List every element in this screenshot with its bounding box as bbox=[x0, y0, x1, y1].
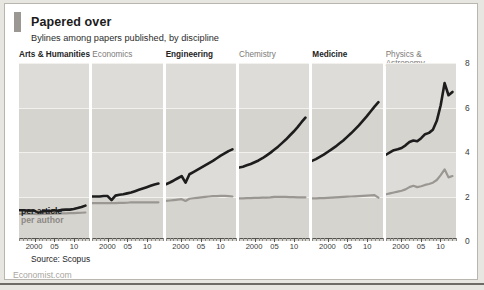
x-tick bbox=[425, 238, 426, 241]
y-tick-label: 0 bbox=[465, 236, 470, 246]
x-tick bbox=[27, 238, 28, 241]
x-tick bbox=[429, 238, 430, 241]
x-tick-labels: 20000510 bbox=[92, 242, 162, 254]
x-tick-labels: 20000510 bbox=[386, 242, 456, 254]
x-tick bbox=[19, 238, 20, 241]
x-tick bbox=[247, 238, 248, 241]
x-tick bbox=[386, 238, 387, 241]
x-tick bbox=[336, 238, 337, 241]
series-label-per-author: per author bbox=[21, 215, 64, 225]
y-tick-label: 8 bbox=[465, 58, 470, 68]
x-tick bbox=[351, 238, 352, 241]
chart-panel-arts-humanities: Arts & Humanitiesper articleper author20… bbox=[19, 50, 92, 246]
chart-plot-area: Arts & Humanitiesper articleper author20… bbox=[19, 50, 459, 246]
panel-body bbox=[386, 63, 456, 241]
x-tick bbox=[286, 238, 287, 241]
x-tick bbox=[278, 238, 279, 241]
panel-title: Arts & Humanities bbox=[19, 50, 90, 59]
x-tick-label: 05 bbox=[123, 242, 131, 251]
chart-frame: Papered over Bylines among papers publis… bbox=[4, 3, 478, 280]
y-tick-label: 4 bbox=[465, 147, 470, 157]
series-line-per-author bbox=[386, 169, 452, 194]
x-tick bbox=[209, 238, 210, 241]
x-tick bbox=[409, 238, 410, 241]
x-tick-label: 2000 bbox=[172, 242, 189, 251]
x-tick bbox=[104, 238, 105, 241]
x-tick bbox=[390, 238, 391, 241]
x-tick bbox=[151, 238, 152, 241]
x-tick bbox=[205, 238, 206, 241]
panel-title: Economics bbox=[92, 50, 163, 59]
x-tick-labels: 20000510 bbox=[239, 242, 309, 254]
x-tick bbox=[290, 238, 291, 241]
x-tick bbox=[379, 238, 380, 241]
panel-title: Engineering bbox=[166, 50, 237, 59]
x-tick bbox=[332, 238, 333, 241]
x-tick bbox=[78, 238, 79, 241]
x-tick bbox=[452, 238, 453, 241]
bottom-rule bbox=[0, 283, 484, 285]
x-tick bbox=[456, 238, 457, 241]
x-tick bbox=[70, 238, 71, 241]
accent-bar bbox=[14, 12, 21, 32]
series-group bbox=[92, 63, 162, 241]
x-tick bbox=[259, 238, 260, 241]
panel-body bbox=[92, 63, 162, 241]
x-tick bbox=[282, 238, 283, 241]
x-tick bbox=[397, 238, 398, 241]
series-line-per-article bbox=[386, 83, 452, 155]
series-line-per-article bbox=[312, 102, 378, 161]
x-tick bbox=[224, 238, 225, 241]
x-tick bbox=[139, 238, 140, 241]
x-tick bbox=[320, 238, 321, 241]
x-tick bbox=[143, 238, 144, 241]
x-tick bbox=[436, 238, 437, 241]
series-line-per-author bbox=[92, 202, 158, 203]
x-tick-label: 10 bbox=[436, 242, 444, 251]
x-tick bbox=[85, 238, 86, 241]
y-axis: 02468 bbox=[461, 50, 478, 250]
panel-body bbox=[166, 63, 236, 241]
x-tick-label: 2000 bbox=[26, 242, 43, 251]
series-line-per-author bbox=[166, 196, 232, 201]
x-tick bbox=[232, 238, 233, 241]
series-line-per-article bbox=[92, 184, 158, 200]
x-tick bbox=[413, 238, 414, 241]
x-tick bbox=[92, 238, 93, 241]
panel-body bbox=[312, 63, 382, 241]
x-tick bbox=[371, 238, 372, 241]
x-tick bbox=[23, 238, 24, 241]
x-tick bbox=[197, 238, 198, 241]
x-tick bbox=[173, 238, 174, 241]
x-tick bbox=[62, 238, 63, 241]
x-tick bbox=[309, 238, 310, 241]
source-note: Source: Scopus bbox=[31, 254, 90, 264]
chart-subtitle: Bylines among papers published, by disci… bbox=[31, 33, 219, 43]
x-tick-label: 05 bbox=[270, 242, 278, 251]
x-tick bbox=[189, 238, 190, 241]
x-tick bbox=[163, 238, 164, 241]
x-tick bbox=[316, 238, 317, 241]
panel-title: Chemistry bbox=[239, 50, 310, 59]
x-tick bbox=[216, 238, 217, 241]
y-tick-label: 6 bbox=[465, 103, 470, 113]
x-tick-label: 2000 bbox=[246, 242, 263, 251]
x-tick bbox=[159, 238, 160, 241]
x-tick bbox=[359, 238, 360, 241]
x-tick-labels: 20000510 bbox=[312, 242, 382, 254]
series-line-per-article bbox=[166, 149, 232, 184]
x-tick-labels: 20000510 bbox=[166, 242, 236, 254]
x-tick bbox=[66, 238, 67, 241]
chart-panel-physics-astronomy: Physics & Astronomy20000510 bbox=[386, 50, 459, 246]
x-tick bbox=[312, 238, 313, 241]
x-tick-label: 05 bbox=[197, 242, 205, 251]
x-tick bbox=[363, 238, 364, 241]
panel-body bbox=[239, 63, 309, 241]
x-tick-label: 10 bbox=[143, 242, 151, 251]
x-tick bbox=[50, 238, 51, 241]
brand-label: Economist.com bbox=[13, 270, 72, 280]
x-tick bbox=[302, 238, 303, 241]
x-tick bbox=[131, 238, 132, 241]
x-tick-label: 05 bbox=[417, 242, 425, 251]
x-tick bbox=[444, 238, 445, 241]
